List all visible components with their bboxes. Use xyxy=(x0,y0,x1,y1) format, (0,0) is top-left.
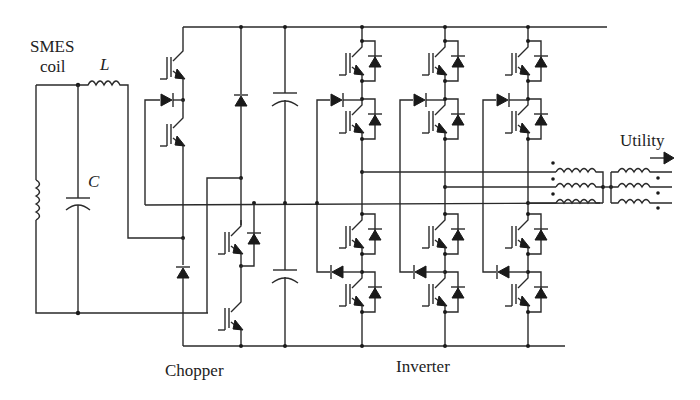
inverter xyxy=(315,25,556,348)
filter-inductor-L xyxy=(78,81,183,238)
inverter-leg-a xyxy=(315,25,382,348)
utility-arrow-icon xyxy=(650,152,674,164)
inductor-label: L xyxy=(100,56,109,73)
utility-label: Utility xyxy=(620,132,664,149)
smes-coil-label-2: coil xyxy=(40,58,66,75)
dc-link-capacitors xyxy=(272,25,298,348)
filter-capacitor-C xyxy=(66,85,90,313)
inverter-label: Inverter xyxy=(396,358,450,375)
capacitor-label: C xyxy=(88,173,99,190)
chopper-label: Chopper xyxy=(165,362,224,379)
smes-coil-label: SMES xyxy=(30,38,74,55)
